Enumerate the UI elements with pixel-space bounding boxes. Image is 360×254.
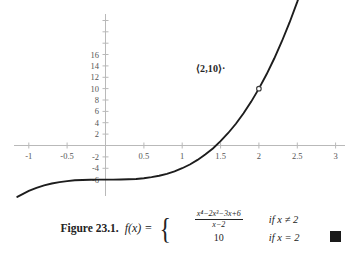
svg-text:-1: -1 bbox=[25, 151, 32, 161]
svg-text:1: 1 bbox=[180, 151, 184, 161]
figure-23-1: -1 -0.5 0.5 1 1.5 2 2.5 3 -6 -4 -2 2 4 6… bbox=[0, 0, 360, 254]
point-dot-marker: · bbox=[222, 63, 225, 74]
piecewise-cases: x⁴−2x³−3x+6 x−2 if x ≠ 2 10 if x = 2 bbox=[178, 211, 300, 246]
svg-text:3: 3 bbox=[333, 151, 337, 161]
svg-text:6: 6 bbox=[95, 106, 99, 116]
svg-text:-0.5: -0.5 bbox=[60, 151, 73, 161]
function-plot: -1 -0.5 0.5 1 1.5 2 2.5 3 -6 -4 -2 2 4 6… bbox=[0, 0, 360, 205]
svg-text:4: 4 bbox=[95, 118, 100, 128]
svg-text:10: 10 bbox=[91, 84, 100, 94]
caption-inner: Figure 23.1. f(x) = { x⁴−2x³−3x+6 x−2 if… bbox=[60, 211, 299, 246]
svg-text:8: 8 bbox=[95, 95, 99, 105]
figure-caption: Figure 23.1. f(x) = { x⁴−2x³−3x+6 x−2 if… bbox=[0, 206, 360, 250]
svg-text:14: 14 bbox=[91, 61, 100, 71]
svg-text:1.5: 1.5 bbox=[215, 151, 226, 161]
function-curve bbox=[17, 0, 312, 197]
end-of-proof-square-icon bbox=[330, 231, 341, 242]
figure-number-label: Figure 23.1. bbox=[60, 222, 118, 234]
case-condition: if x = 2 bbox=[260, 232, 300, 243]
svg-text:2.5: 2.5 bbox=[292, 151, 303, 161]
case-value: 10 bbox=[178, 232, 260, 243]
case-expression-fraction: x⁴−2x³−3x+6 x−2 bbox=[178, 209, 260, 229]
svg-text:2: 2 bbox=[257, 151, 261, 161]
svg-text:-2: -2 bbox=[92, 152, 99, 162]
fraction-numerator: x⁴−2x³−3x+6 bbox=[195, 210, 243, 219]
function-definition-lhs: f(x) = bbox=[125, 221, 153, 236]
svg-text:2: 2 bbox=[95, 129, 99, 139]
case-row: x⁴−2x³−3x+6 x−2 if x ≠ 2 bbox=[178, 211, 300, 228]
point-coordinates-text: ⟨2,10⟩ bbox=[196, 63, 222, 74]
left-curly-brace-icon: { bbox=[160, 216, 172, 241]
case-condition: if x ≠ 2 bbox=[260, 214, 298, 225]
svg-text:0.5: 0.5 bbox=[139, 151, 150, 161]
svg-text:16: 16 bbox=[91, 50, 100, 60]
svg-text:-4: -4 bbox=[92, 163, 100, 173]
fraction: x⁴−2x³−3x+6 x−2 bbox=[195, 210, 243, 229]
x-tick-labels: -1 -0.5 0.5 1 1.5 2 2.5 3 bbox=[25, 151, 337, 161]
y-tick-labels: -6 -4 -2 2 4 6 8 10 12 14 16 bbox=[91, 50, 100, 185]
point-annotation-label: ⟨2,10⟩· bbox=[196, 63, 226, 74]
svg-text:12: 12 bbox=[91, 72, 100, 82]
open-circle-hole-marker bbox=[257, 86, 262, 91]
case-row: 10 if x = 2 bbox=[178, 229, 300, 246]
